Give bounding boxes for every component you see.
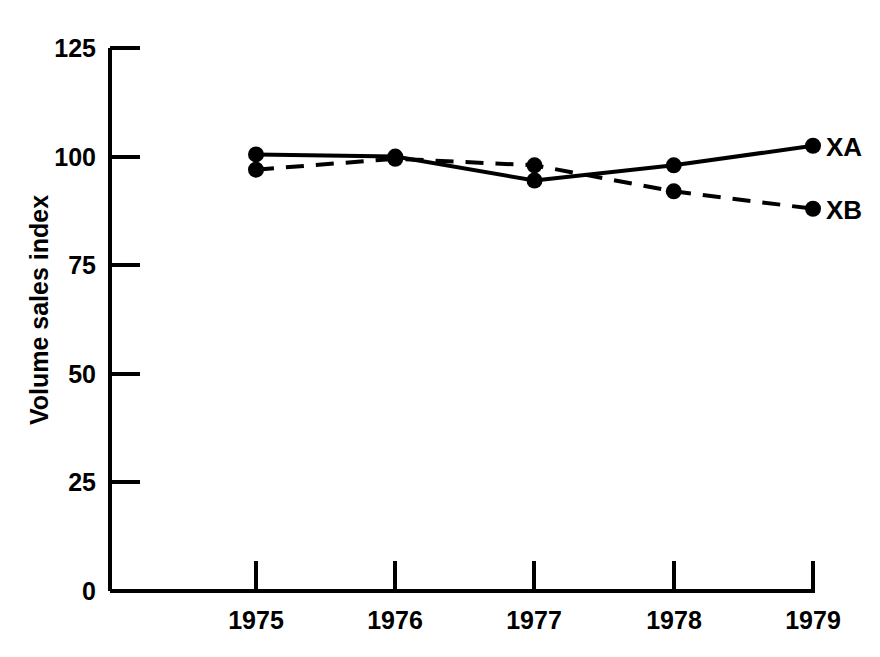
data-point (805, 138, 821, 154)
line-chart: 125 100 75 50 25 0 1975 1976 1977 1978 1… (0, 0, 880, 657)
y-tick-label-25: 25 (68, 468, 96, 496)
x-tick-label-1976: 1976 (367, 606, 423, 634)
x-tick-label-1978: 1978 (646, 606, 702, 634)
x-tick-label-1979: 1979 (785, 606, 841, 634)
series-xa-label: XA (826, 132, 862, 162)
data-point (666, 157, 682, 173)
y-tick-label-50: 50 (68, 360, 96, 388)
x-tick-label-1975: 1975 (228, 606, 284, 634)
y-tick-label-0: 0 (82, 577, 96, 605)
y-tick-label-75: 75 (68, 251, 96, 279)
series-xb: XB (248, 151, 862, 225)
y-tick-label-100: 100 (54, 143, 96, 171)
data-point (805, 201, 821, 217)
data-point (666, 183, 682, 199)
data-point (527, 157, 543, 173)
data-point (387, 151, 403, 167)
data-point (527, 172, 543, 188)
y-axis-title: Volume sales index (25, 195, 53, 425)
data-point (248, 146, 264, 162)
chart-container: 125 100 75 50 25 0 1975 1976 1977 1978 1… (0, 0, 880, 657)
data-point (248, 162, 264, 178)
series-xa: XA (248, 132, 862, 189)
y-tick-label-125: 125 (54, 34, 96, 62)
x-tick-label-1977: 1977 (506, 606, 562, 634)
series-xb-label: XB (826, 195, 862, 225)
